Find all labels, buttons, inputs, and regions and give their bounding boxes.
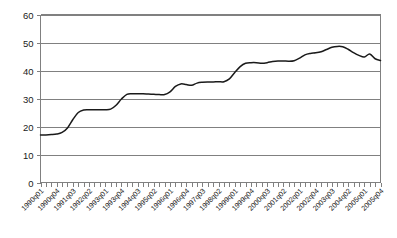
y-tick-label: 30 (23, 94, 34, 105)
y-tick-label: 50 (23, 38, 34, 49)
y-tick-label: 40 (23, 66, 34, 77)
line-chart: 0102030405060 1990q011990q041991q031992q… (0, 0, 397, 238)
y-tick-label: 0 (28, 178, 33, 189)
y-tick-label: 20 (23, 122, 34, 133)
y-tick-label: 10 (23, 150, 34, 161)
chart-container: 0102030405060 1990q011990q041991q031992q… (0, 0, 397, 238)
y-tick-label: 60 (23, 10, 34, 21)
